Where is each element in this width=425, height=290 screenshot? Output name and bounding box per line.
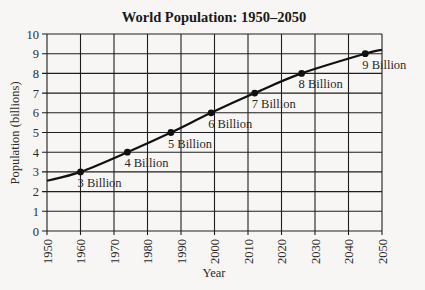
x-tick-label: 2000 [208, 239, 222, 264]
y-axis-label: Population (billions) [8, 81, 22, 184]
x-axis-label: Year [202, 266, 226, 280]
x-tick-label: 1990 [175, 239, 189, 264]
y-tick-label: 0 [33, 225, 39, 239]
x-tick-label: 1960 [74, 239, 88, 264]
data-point-label: 8 Billion [299, 77, 344, 91]
data-point-label: 6 Billion [208, 117, 253, 131]
data-point-marker [298, 70, 305, 77]
data-point-marker [251, 90, 258, 97]
x-tick-label: 2040 [342, 239, 356, 264]
line-chart: World Population: 1950–2050 012345678910… [0, 0, 425, 290]
x-tick-label: 1970 [108, 239, 122, 264]
y-axis-ticks: 012345678910 [27, 28, 40, 239]
y-tick-label: 1 [33, 205, 39, 219]
data-point-marker [124, 149, 131, 156]
x-tick-label: 1980 [141, 239, 155, 264]
data-point-label: 4 Billion [124, 156, 169, 170]
data-point-marker [362, 50, 369, 57]
y-tick-label: 2 [33, 185, 39, 199]
data-point-label: 9 Billion [362, 58, 407, 72]
y-tick-label: 9 [33, 47, 39, 61]
x-axis-ticks: 1950196019701980199020002010202020302040… [41, 239, 390, 264]
x-tick-label: 2030 [309, 239, 323, 264]
x-tick-label: 2050 [376, 239, 390, 264]
x-tick-label: 1950 [41, 239, 55, 264]
data-point-marker [168, 129, 175, 136]
data-point-marker [208, 109, 215, 116]
y-tick-label: 4 [33, 146, 40, 160]
y-tick-label: 10 [27, 28, 40, 42]
data-annotations: 3 Billion4 Billion5 Billion6 Billion7 Bi… [77, 50, 407, 190]
chart-container: World Population: 1950–2050 012345678910… [0, 0, 425, 290]
y-tick-label: 7 [33, 87, 39, 101]
data-point-label: 7 Billion [252, 97, 297, 111]
x-tick-label: 2010 [242, 239, 256, 264]
data-point-label: 5 Billion [168, 137, 213, 151]
y-tick-label: 6 [33, 106, 39, 120]
data-point-label: 3 Billion [78, 176, 123, 190]
y-tick-label: 5 [33, 126, 39, 140]
data-point-marker [77, 169, 84, 176]
chart-title: World Population: 1950–2050 [122, 9, 307, 25]
y-tick-label: 3 [33, 165, 39, 179]
y-tick-label: 8 [33, 67, 39, 81]
x-tick-label: 2020 [275, 239, 289, 264]
